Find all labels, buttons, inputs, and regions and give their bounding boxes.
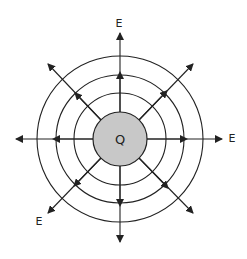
charge-label: Q: [115, 132, 125, 147]
field-line-up-right-mid: [139, 93, 165, 120]
field-label-bottom-left: E: [36, 215, 43, 228]
field-diagram: Q E E E: [0, 0, 247, 259]
field-line-down-right-mid: [139, 158, 166, 186]
field-label-right: E: [229, 132, 236, 145]
field-label-top: E: [116, 17, 123, 30]
